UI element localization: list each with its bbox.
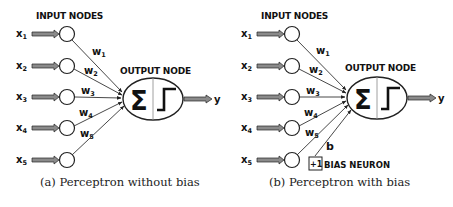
output-label: y <box>214 94 221 105</box>
svg-text:x4: x4 <box>241 122 252 135</box>
svg-text:x1: x1 <box>16 28 27 41</box>
weight-label: w <box>84 65 93 76</box>
svg-text:w4: w4 <box>79 107 93 120</box>
input-arrow-icon <box>257 30 284 38</box>
caption-b: (b) Perceptron with bias <box>269 175 410 189</box>
input-arrow-icon <box>257 62 284 70</box>
bias-neuron: +1 BIAS NEURON <box>309 157 390 170</box>
input-row-5: x5 <box>16 153 75 168</box>
svg-text:w5: w5 <box>305 127 319 140</box>
weight-edge-3 <box>75 97 121 98</box>
panel-a: INPUT NODES OUTPUT NODE x1 x2 x3 x4 x5 <box>16 11 221 189</box>
svg-text:x2: x2 <box>16 60 27 73</box>
weight-label: w <box>80 128 89 139</box>
input-node <box>285 90 300 105</box>
input-arrow-icon <box>32 124 59 132</box>
input-arrow-icon <box>32 156 59 164</box>
output-node: Σ <box>347 77 407 119</box>
input-row-1: x1 <box>241 27 300 42</box>
svg-text:x1: x1 <box>241 28 252 41</box>
input-arrow-icon <box>32 93 59 101</box>
bias-neuron-label: BIAS NEURON <box>324 160 390 170</box>
panel-b: INPUT NODES OUTPUT NODE x1 x2 x3 x4 x5 <box>241 11 445 189</box>
summation-icon: Σ <box>130 86 148 116</box>
input-row-2: x2 <box>241 59 300 74</box>
svg-text:x4: x4 <box>16 122 27 135</box>
svg-text:w1: w1 <box>92 46 106 59</box>
weight-label: w <box>316 45 325 56</box>
input-node <box>60 121 75 136</box>
input-row-3: x3 <box>241 90 300 105</box>
input-node <box>60 90 75 105</box>
weight-label: w <box>79 107 88 118</box>
bias-weight-label: b <box>326 140 334 153</box>
svg-text:w1: w1 <box>316 45 330 58</box>
input-node <box>285 59 300 74</box>
output-node-header: OUTPUT NODE <box>120 66 191 76</box>
input-row-4: x4 <box>241 121 300 136</box>
input-row-2: x2 <box>16 59 75 74</box>
input-row-1: x1 <box>16 27 75 42</box>
input-row-5: x5 <box>241 153 300 168</box>
input-arrow-icon <box>32 30 59 38</box>
svg-text:w5: w5 <box>80 128 94 141</box>
input-node <box>285 121 300 136</box>
weight-label: w <box>309 64 318 75</box>
svg-text:w3: w3 <box>81 85 95 98</box>
weight-label: w <box>92 46 101 57</box>
svg-text:w3: w3 <box>306 85 320 98</box>
svg-text:x3: x3 <box>241 91 252 104</box>
svg-text:x5: x5 <box>241 154 252 167</box>
output-label: y <box>438 93 445 104</box>
svg-text:w2: w2 <box>84 65 98 78</box>
svg-text:x5: x5 <box>16 154 27 167</box>
input-arrow-icon <box>257 156 284 164</box>
svg-text:x2: x2 <box>241 60 252 73</box>
output-node: Σ <box>123 78 183 120</box>
output-arrow-icon <box>408 94 436 102</box>
svg-text:x3: x3 <box>16 91 27 104</box>
weight-label: w <box>305 127 314 138</box>
input-node <box>60 27 75 42</box>
perceptron-diagram: INPUT NODES OUTPUT NODE x1 x2 x3 x4 x5 <box>0 0 453 207</box>
input-node <box>285 27 300 42</box>
input-row-4: x4 <box>16 121 75 136</box>
input-node <box>60 59 75 74</box>
input-nodes-header: INPUT NODES <box>36 11 103 21</box>
output-node-header: OUTPUT NODE <box>345 63 416 73</box>
svg-text:w4: w4 <box>304 107 318 120</box>
weight-label: w <box>304 107 313 118</box>
input-arrow-icon <box>257 93 284 101</box>
weight-label: w <box>306 85 315 96</box>
input-arrow-icon <box>257 124 284 132</box>
output-arrow-icon <box>184 95 212 103</box>
summation-icon: Σ <box>354 85 372 115</box>
input-nodes-header: INPUT NODES <box>261 11 328 21</box>
weight-label: w <box>81 85 90 96</box>
caption-a: (a) Perceptron without bias <box>40 175 200 189</box>
input-arrow-icon <box>32 62 59 70</box>
bias-value: +1 <box>310 160 323 169</box>
input-row-3: x3 <box>16 90 75 105</box>
